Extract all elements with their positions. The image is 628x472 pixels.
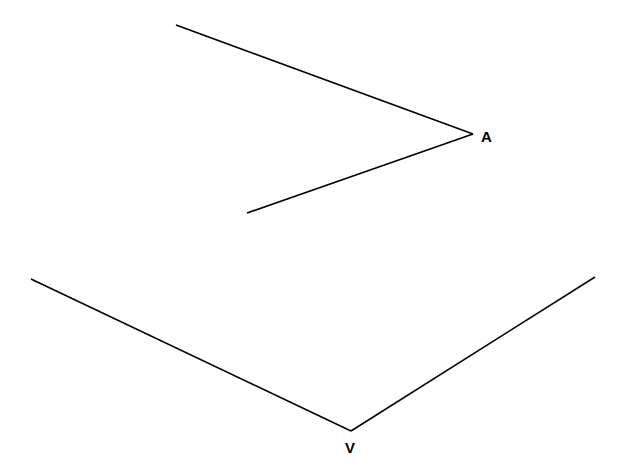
angle-a-upper-ray: [176, 25, 473, 134]
angle-a-lower-ray: [247, 134, 473, 213]
diagram-canvas: A V: [0, 0, 628, 472]
angle-v-label: V: [345, 439, 355, 456]
angle-a-label: A: [481, 128, 492, 145]
angle-v-right-ray: [351, 277, 595, 431]
angle-v: V: [31, 277, 595, 456]
angle-a: A: [176, 25, 492, 213]
angle-v-left-ray: [31, 279, 351, 431]
